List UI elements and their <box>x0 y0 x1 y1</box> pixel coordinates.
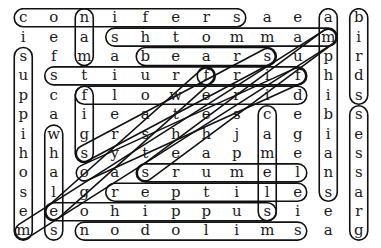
grid-cell[interactable]: s <box>252 47 283 66</box>
grid-cell[interactable]: u <box>222 202 253 221</box>
grid-cell[interactable]: t <box>191 183 222 202</box>
grid-cell[interactable]: e <box>8 202 39 221</box>
grid-cell[interactable]: a <box>283 27 314 46</box>
grid-cell[interactable]: m <box>252 144 283 163</box>
grid-cell[interactable]: p <box>8 86 39 105</box>
grid-cell[interactable]: l <box>100 86 131 105</box>
grid-cell[interactable]: a <box>313 8 344 27</box>
grid-cell[interactable]: i <box>313 86 344 105</box>
grid-cell[interactable]: e <box>252 163 283 182</box>
grid-cell[interactable]: r <box>161 66 192 85</box>
grid-cell[interactable]: u <box>8 66 39 85</box>
grid-cell[interactable]: p <box>161 202 192 221</box>
grid-cell[interactable]: i <box>8 27 39 46</box>
grid-cell[interactable]: h <box>130 27 161 46</box>
grid-cell[interactable]: s <box>100 27 131 46</box>
grid-cell[interactable]: e <box>161 144 192 163</box>
grid-cell[interactable]: g <box>69 183 100 202</box>
grid-cell[interactable]: o <box>130 86 161 105</box>
grid-cell[interactable]: h <box>191 124 222 143</box>
grid-cell[interactable]: r <box>222 86 253 105</box>
grid-cell[interactable]: p <box>222 144 253 163</box>
grid-cell[interactable]: i <box>100 8 131 27</box>
grid-cell[interactable]: e <box>283 144 314 163</box>
grid-cell[interactable]: r <box>344 47 375 66</box>
grid-cell[interactable]: l <box>39 183 70 202</box>
grid-cell[interactable]: t <box>130 144 161 163</box>
grid-cell[interactable]: f <box>130 8 161 27</box>
grid-cell[interactable]: s <box>69 144 100 163</box>
grid-cell[interactable]: d <box>283 86 314 105</box>
grid-cell[interactable]: p <box>313 47 344 66</box>
grid-cell[interactable]: s <box>39 221 70 240</box>
grid-cell[interactable]: b <box>130 47 161 66</box>
grid-cell[interactable]: e <box>39 27 70 46</box>
grid-cell[interactable]: s <box>8 47 39 66</box>
grid-cell[interactable]: w <box>161 86 192 105</box>
grid-cell[interactable]: r <box>222 47 253 66</box>
grid-cell[interactable]: s <box>130 124 161 143</box>
grid-cell[interactable]: r <box>100 183 131 202</box>
grid-cell[interactable]: f <box>39 47 70 66</box>
grid-cell[interactable]: i <box>222 183 253 202</box>
grid-cell[interactable]: e <box>191 86 222 105</box>
grid-cell[interactable]: r <box>344 202 375 221</box>
grid-cell[interactable]: s <box>252 202 283 221</box>
grid-cell[interactable]: s <box>344 163 375 182</box>
grid-cell[interactable]: b <box>313 105 344 124</box>
grid-cell[interactable]: p <box>8 105 39 124</box>
grid-cell[interactable]: c <box>252 105 283 124</box>
grid-cell[interactable]: h <box>161 124 192 143</box>
grid-cell[interactable]: l <box>252 183 283 202</box>
grid-cell[interactable]: e <box>191 105 222 124</box>
grid-cell[interactable]: o <box>39 8 70 27</box>
grid-cell[interactable]: h <box>313 66 344 85</box>
grid-cell[interactable]: u <box>283 47 314 66</box>
grid-cell[interactable]: u <box>191 163 222 182</box>
grid-cell[interactable]: a <box>313 221 344 240</box>
grid-cell[interactable]: i <box>100 66 131 85</box>
grid-cell[interactable]: j <box>222 124 253 143</box>
grid-cell[interactable]: i <box>283 202 314 221</box>
grid-cell[interactable]: g <box>283 124 314 143</box>
grid-cell[interactable]: m <box>313 27 344 46</box>
grid-cell[interactable]: a <box>39 105 70 124</box>
grid-cell[interactable]: r <box>100 124 131 143</box>
grid-cell[interactable]: s <box>344 86 375 105</box>
grid-cell[interactable]: s <box>39 66 70 85</box>
grid-cell[interactable]: r <box>222 66 253 85</box>
grid-cell[interactable]: o <box>161 221 192 240</box>
grid-cell[interactable]: a <box>313 144 344 163</box>
grid-cell[interactable]: s <box>283 221 314 240</box>
grid-cell[interactable]: m <box>8 221 39 240</box>
grid-cell[interactable]: i <box>252 66 283 85</box>
grid-cell[interactable]: a <box>100 47 131 66</box>
grid-cell[interactable]: t <box>69 66 100 85</box>
grid-cell[interactable]: e <box>283 8 314 27</box>
grid-cell[interactable]: i <box>252 86 283 105</box>
grid-cell[interactable]: e <box>39 202 70 221</box>
grid-cell[interactable]: f <box>191 66 222 85</box>
grid-cell[interactable]: h <box>39 144 70 163</box>
grid-cell[interactable]: o <box>69 202 100 221</box>
grid-cell[interactable]: i <box>313 124 344 143</box>
grid-cell[interactable]: s <box>313 183 344 202</box>
grid-cell[interactable]: a <box>130 105 161 124</box>
grid-cell[interactable]: e <box>344 124 375 143</box>
grid-cell[interactable]: a <box>69 27 100 46</box>
grid-cell[interactable]: b <box>344 8 375 27</box>
grid-cell[interactable]: n <box>69 8 100 27</box>
grid-cell[interactable]: e <box>100 105 131 124</box>
grid-cell[interactable]: r <box>191 8 222 27</box>
grid-cell[interactable]: c <box>8 8 39 27</box>
grid-cell[interactable]: d <box>344 66 375 85</box>
grid-cell[interactable]: i <box>8 124 39 143</box>
grid-cell[interactable]: w <box>39 124 70 143</box>
grid-cell[interactable]: s <box>344 144 375 163</box>
grid-cell[interactable]: u <box>130 66 161 85</box>
grid-cell[interactable]: i <box>130 202 161 221</box>
grid-cell[interactable]: l <box>191 221 222 240</box>
grid-cell[interactable]: o <box>191 27 222 46</box>
grid-cell[interactable]: m <box>69 47 100 66</box>
grid-cell[interactable]: l <box>283 163 314 182</box>
